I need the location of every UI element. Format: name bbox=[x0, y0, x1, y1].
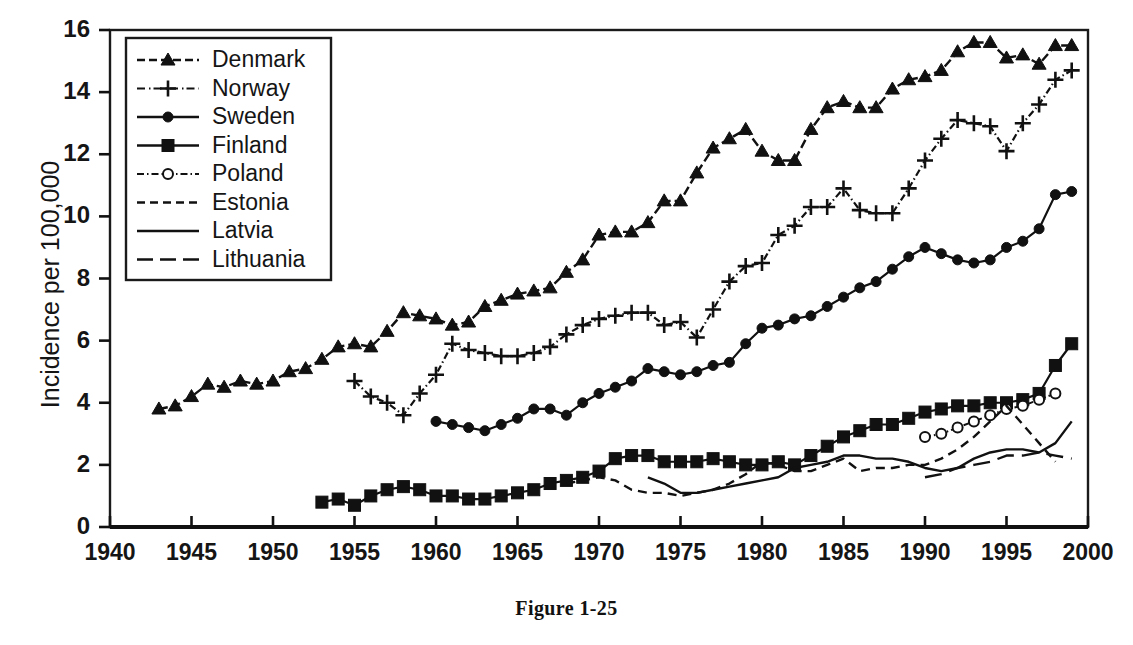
data-point-marker bbox=[917, 152, 933, 168]
data-point-marker bbox=[528, 484, 540, 496]
data-point-marker bbox=[853, 101, 867, 113]
y-tick-label: 16 bbox=[44, 15, 90, 43]
data-point-marker bbox=[723, 456, 735, 468]
data-point-marker bbox=[870, 418, 882, 430]
data-point-marker bbox=[414, 484, 426, 496]
series-sweden bbox=[431, 187, 1077, 436]
data-point-marker bbox=[985, 410, 995, 420]
x-tick-label: 2000 bbox=[1043, 539, 1133, 566]
data-point-marker bbox=[348, 337, 362, 349]
data-point-marker bbox=[790, 314, 800, 324]
data-point-marker bbox=[884, 205, 900, 221]
data-point-marker bbox=[542, 339, 558, 355]
legend-marker bbox=[163, 112, 173, 122]
data-point-marker bbox=[1066, 338, 1078, 350]
data-point-marker bbox=[607, 308, 623, 324]
data-point-marker bbox=[707, 453, 719, 465]
data-point-marker bbox=[706, 141, 720, 153]
y-tick-label: 2 bbox=[44, 450, 90, 478]
data-point-marker bbox=[593, 465, 605, 477]
data-point-marker bbox=[431, 416, 441, 426]
data-point-marker bbox=[770, 227, 786, 243]
data-point-marker bbox=[624, 305, 640, 321]
x-tick-label: 1945 bbox=[147, 539, 237, 566]
data-point-marker bbox=[920, 242, 930, 252]
data-point-marker bbox=[316, 496, 328, 508]
x-tick-label: 1940 bbox=[65, 539, 155, 566]
data-point-marker bbox=[854, 425, 866, 437]
data-point-marker bbox=[724, 357, 734, 367]
data-point-marker bbox=[675, 456, 687, 468]
data-point-marker bbox=[1018, 236, 1028, 246]
y-tick-label: 0 bbox=[44, 512, 90, 540]
data-point-marker bbox=[447, 419, 457, 429]
data-point-marker bbox=[886, 418, 898, 430]
y-tick-label: 12 bbox=[44, 139, 90, 167]
y-tick-label: 4 bbox=[44, 388, 90, 416]
data-point-marker bbox=[839, 292, 849, 302]
legend-label-lithuania: Lithuania bbox=[212, 246, 305, 273]
data-point-marker bbox=[561, 410, 571, 420]
data-point-marker bbox=[920, 432, 930, 442]
data-point-marker bbox=[526, 345, 542, 361]
x-tick-label: 1965 bbox=[473, 539, 563, 566]
data-point-marker bbox=[365, 490, 377, 502]
data-point-marker bbox=[591, 311, 607, 327]
chart-figure: Incidence per 100,000 0246810121416 1940… bbox=[0, 0, 1133, 645]
data-point-marker bbox=[512, 487, 524, 499]
data-point-marker bbox=[871, 277, 881, 287]
legend-label-latvia: Latvia bbox=[212, 217, 273, 244]
data-point-marker bbox=[480, 426, 490, 436]
legend-label-finland: Finland bbox=[212, 132, 287, 159]
data-point-marker bbox=[513, 413, 523, 423]
x-tick-label: 1980 bbox=[717, 539, 807, 566]
data-point-marker bbox=[968, 400, 980, 412]
data-point-marker bbox=[349, 499, 361, 511]
data-point-marker bbox=[936, 429, 946, 439]
legend-label-norway: Norway bbox=[212, 75, 290, 102]
data-point-marker bbox=[919, 406, 931, 418]
data-point-marker bbox=[1049, 359, 1061, 371]
y-tick-label: 8 bbox=[44, 264, 90, 292]
data-point-marker bbox=[464, 423, 474, 433]
data-point-marker bbox=[446, 490, 458, 502]
data-point-marker bbox=[983, 35, 997, 47]
legend-label-denmark: Denmark bbox=[212, 46, 305, 73]
data-point-marker bbox=[381, 484, 393, 496]
legend-label-poland: Poland bbox=[212, 160, 284, 187]
x-tick-label: 1960 bbox=[391, 539, 481, 566]
data-point-marker bbox=[852, 202, 868, 218]
data-point-marker bbox=[806, 311, 816, 321]
data-point-marker bbox=[1031, 97, 1047, 113]
data-point-marker bbox=[868, 205, 884, 221]
data-point-marker bbox=[544, 478, 556, 490]
data-point-marker bbox=[396, 306, 410, 318]
data-point-marker bbox=[1067, 187, 1077, 197]
data-point-marker bbox=[299, 362, 313, 374]
data-point-marker bbox=[576, 253, 590, 265]
data-point-marker bbox=[559, 265, 573, 277]
x-tick-label: 1990 bbox=[880, 539, 970, 566]
data-point-marker bbox=[952, 400, 964, 412]
x-tick-label: 1995 bbox=[962, 539, 1052, 566]
data-point-marker bbox=[1015, 115, 1031, 131]
data-point-marker bbox=[691, 456, 703, 468]
y-tick-label: 10 bbox=[44, 201, 90, 229]
data-point-marker bbox=[266, 374, 280, 386]
data-point-marker bbox=[658, 456, 670, 468]
legend-label-sweden: Sweden bbox=[212, 103, 295, 130]
data-point-marker bbox=[739, 122, 753, 134]
data-point-marker bbox=[461, 342, 477, 358]
data-point-marker bbox=[201, 377, 215, 389]
figure-root: Incidence per 100,000 0246810121416 1940… bbox=[0, 0, 1133, 645]
data-point-marker bbox=[659, 367, 669, 377]
data-point-marker bbox=[855, 283, 865, 293]
data-point-marker bbox=[578, 398, 588, 408]
data-point-marker bbox=[627, 376, 637, 386]
data-point-marker bbox=[722, 132, 736, 144]
data-point-marker bbox=[594, 388, 604, 398]
data-point-marker bbox=[904, 252, 914, 262]
data-point-marker bbox=[1050, 388, 1060, 398]
data-point-marker bbox=[982, 118, 998, 134]
data-point-marker bbox=[608, 225, 622, 237]
